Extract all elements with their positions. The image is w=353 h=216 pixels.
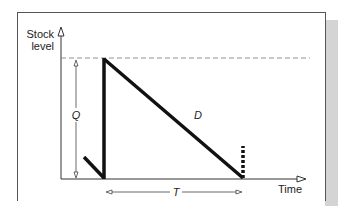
x-axis-label-time: Time bbox=[278, 183, 302, 195]
demand-label: D bbox=[194, 109, 202, 121]
inventory-chart: Stock level Q D T Time bbox=[0, 0, 353, 216]
q-arrow-up-icon bbox=[74, 60, 78, 66]
stock-level-line bbox=[84, 58, 243, 179]
y-axis-arrow-icon bbox=[58, 27, 64, 36]
y-axis-label-level: level bbox=[31, 40, 54, 52]
y-axis bbox=[58, 27, 64, 179]
t-arrow-right-icon bbox=[236, 190, 242, 194]
t-arrow-left-icon bbox=[106, 190, 112, 194]
quantity-label: Q bbox=[72, 109, 81, 121]
diagram-canvas: Stock level Q D T Time bbox=[0, 0, 353, 216]
x-axis-arrow-icon bbox=[297, 176, 306, 182]
q-arrow-down-icon bbox=[74, 172, 78, 178]
x-axis bbox=[61, 176, 306, 182]
y-axis-label-stock: Stock bbox=[26, 28, 54, 40]
